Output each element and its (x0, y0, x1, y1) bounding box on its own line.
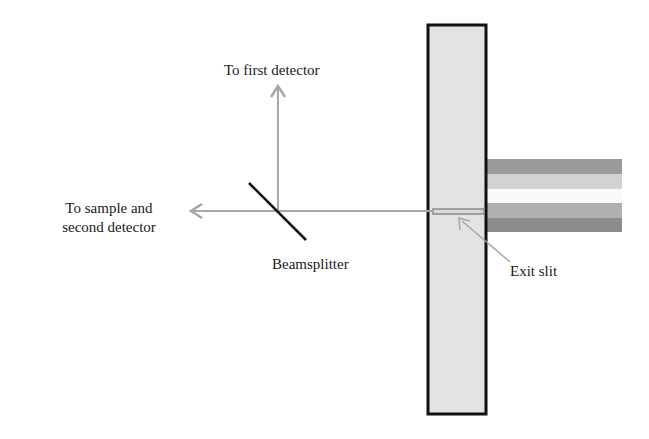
input-light-stripes (480, 159, 622, 232)
diagram-canvas: To first detector To sample and second d… (0, 0, 649, 439)
label-exit-slit: Exit slit (510, 262, 557, 281)
stripe-5 (480, 218, 622, 232)
label-sample-line-1: To sample and (36, 199, 182, 218)
label-first-detector: To first detector (224, 61, 320, 80)
exit-slit (433, 209, 484, 214)
label-sample-second-detector: To sample and second detector (36, 199, 182, 237)
stripe-1 (480, 159, 622, 174)
label-sample-line-2: second detector (36, 218, 182, 237)
stripe-4 (480, 203, 622, 218)
label-beamsplitter: Beamsplitter (272, 255, 349, 274)
stripe-2 (480, 174, 622, 189)
exit-panel (428, 25, 486, 414)
stripe-3 (480, 189, 622, 203)
